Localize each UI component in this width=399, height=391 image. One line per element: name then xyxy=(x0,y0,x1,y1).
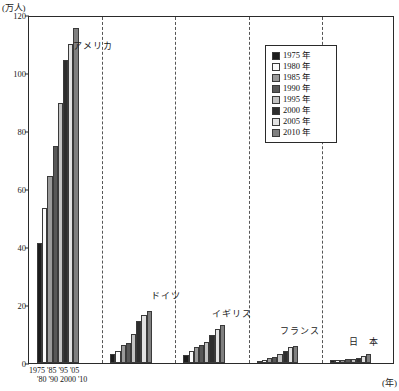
bar xyxy=(220,325,225,363)
legend-label: 2005 年 xyxy=(283,116,311,127)
legend-swatch-icon xyxy=(272,63,280,71)
legend-label: 1980 年 xyxy=(283,61,311,72)
y-tick-label: 0 xyxy=(0,359,26,369)
country-label-0: アメリカ xyxy=(73,39,113,52)
legend-label: 1985 年 xyxy=(283,72,311,83)
chart-figure: (万人) (年) アメリカドイツイギリスフランス日 本 1975 年1980 年… xyxy=(0,0,399,391)
legend-item[interactable]: 1995 年 xyxy=(272,94,330,105)
legend-swatch-icon xyxy=(272,107,280,115)
legend-swatch-icon xyxy=(272,129,280,137)
legend-label: 2010 年 xyxy=(283,127,311,138)
x-tick-row-bottom: '80 '90 2000 '10 xyxy=(37,375,87,384)
bar xyxy=(293,346,298,363)
legend-label: 1975 年 xyxy=(283,50,311,61)
legend: 1975 年1980 年1985 年1990 年1995 年2000 年2005… xyxy=(265,45,337,143)
y-tick-label: 100 xyxy=(0,69,26,79)
x-tick-row-top: 1975 '85 '95 '05 xyxy=(29,366,79,375)
bars-layer xyxy=(29,17,393,363)
legend-swatch-icon xyxy=(272,85,280,93)
country-label-1: ドイツ xyxy=(151,289,181,302)
plot-inner: アメリカドイツイギリスフランス日 本 1975 年1980 年1985 年199… xyxy=(29,17,393,363)
y-tick-mark xyxy=(25,364,29,365)
bar xyxy=(73,28,78,363)
x-axis-tick-labels: 1975 '85 '95 '05 '80 '90 2000 '10 xyxy=(28,366,394,390)
y-tick-mark xyxy=(25,306,29,307)
legend-swatch-icon xyxy=(272,96,280,104)
y-tick-label: 60 xyxy=(0,185,26,195)
legend-item[interactable]: 2005 年 xyxy=(272,116,330,127)
legend-item[interactable]: 1975 年 xyxy=(272,50,330,61)
legend-item[interactable]: 1985 年 xyxy=(272,72,330,83)
country-label-4: 日 本 xyxy=(349,335,379,348)
legend-swatch-icon xyxy=(272,74,280,82)
y-tick-mark xyxy=(25,190,29,191)
plot-area: アメリカドイツイギリスフランス日 本 1975 年1980 年1985 年199… xyxy=(28,16,394,364)
legend-item[interactable]: 2000 年 xyxy=(272,105,330,116)
y-tick-mark xyxy=(25,74,29,75)
y-tick-label: 80 xyxy=(0,127,26,137)
y-tick-label: 40 xyxy=(0,243,26,253)
legend-item[interactable]: 1980 年 xyxy=(272,61,330,72)
country-label-3: フランス xyxy=(280,324,320,337)
y-tick-mark xyxy=(25,248,29,249)
bar xyxy=(147,311,152,363)
bar xyxy=(366,354,371,363)
legend-item[interactable]: 1990 年 xyxy=(272,83,330,94)
legend-label: 2000 年 xyxy=(283,105,311,116)
country-label-2: イギリス xyxy=(212,307,252,320)
y-tick-mark xyxy=(25,16,29,17)
legend-swatch-icon xyxy=(272,118,280,126)
y-tick-label: 120 xyxy=(0,11,26,21)
legend-label: 1990 年 xyxy=(283,83,311,94)
y-tick-label: 20 xyxy=(0,301,26,311)
legend-label: 1995 年 xyxy=(283,94,311,105)
legend-swatch-icon xyxy=(272,52,280,60)
y-tick-mark xyxy=(25,132,29,133)
legend-item[interactable]: 2010 年 xyxy=(272,127,330,138)
